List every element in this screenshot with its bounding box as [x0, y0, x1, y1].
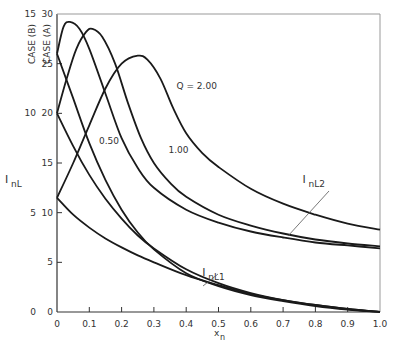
y-axis-title-sub: nL [11, 179, 22, 189]
y-tick-label-case-b: 15 [25, 9, 36, 19]
y-tick-label-case-a: 15 [42, 158, 53, 168]
y-axis-title-main: I [5, 173, 8, 186]
x-tick-label: 0.4 [179, 319, 194, 329]
curve-label: Q = 2.00 [177, 81, 218, 91]
y-tick-label-case-a: 0 [47, 307, 53, 317]
x-tick-label: 0.1 [82, 319, 96, 329]
y-tick-label-case-a: 30 [42, 9, 54, 19]
x-tick-label: 0 [54, 319, 60, 329]
x-axis-title-sub: n [220, 333, 225, 342]
data-series [57, 22, 380, 312]
y-tick-label-case-b: 10 [25, 108, 37, 118]
y-axis-case-b-label: CASE (B) [27, 24, 37, 64]
leader-line [288, 191, 329, 236]
y-axis-title: I nL [5, 173, 22, 189]
y-tick-label-case-a: 5 [47, 257, 53, 267]
group-label-main: I [302, 173, 305, 186]
line-chart: 00.10.20.30.40.50.60.70.80.91.0 05101520… [0, 0, 397, 352]
x-tick-label: 1.0 [373, 319, 388, 329]
y-tick-label-case-a: 20 [42, 108, 54, 118]
y-tick-label-case-a: 10 [42, 208, 54, 218]
y-axis-case-a-label: CASE (A) [42, 24, 52, 64]
x-axis-title: x n [214, 328, 225, 342]
x-tick-label: 0.2 [114, 319, 128, 329]
curve-label: 1.00 [168, 145, 188, 155]
curve-labels: Q = 2.001.000.50 [99, 81, 217, 155]
group-label-sub: nL1 [208, 272, 224, 282]
group-label-main: I [202, 266, 205, 279]
x-tick-label: 0.9 [341, 319, 356, 329]
x-tick-label: 0.7 [276, 319, 290, 329]
x-tick-label: 0.3 [147, 319, 161, 329]
curve-label: 0.50 [99, 136, 119, 146]
x-tick-label: 0.6 [244, 319, 259, 329]
y-tick-label-case-b: 0 [30, 307, 36, 317]
y-tick-label-case-b: 5 [30, 208, 36, 218]
x-axis-ticks: 00.10.20.30.40.50.60.70.80.91.0 [54, 307, 387, 329]
group-label-nl2: InL2 [288, 173, 329, 236]
x-tick-label: 0.8 [308, 319, 323, 329]
plot-frame [57, 14, 380, 312]
group-label-sub: nL2 [308, 179, 324, 189]
